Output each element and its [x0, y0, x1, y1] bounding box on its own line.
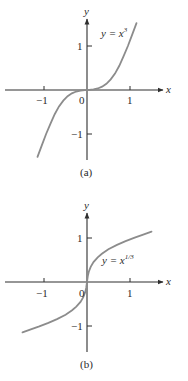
x-tick-label-1: 1 — [127, 287, 133, 299]
x-axis-label: x — [165, 83, 171, 95]
x-tick-label-neg1: −1 — [36, 94, 48, 106]
equation-label-b: y = x1/3 — [101, 253, 134, 266]
y-tick-label-1: 1 — [77, 232, 83, 244]
panel-a: x y −1 0 1 1 −1 y = x3 (a) — [5, 5, 171, 179]
x-tick-label-neg1: −1 — [36, 287, 48, 299]
caption-a: (a) — [80, 166, 93, 179]
x-tick-label-1: 1 — [127, 94, 133, 106]
panel-b: x y −1 0 1 1 −1 y = x1/3 (b) — [5, 199, 171, 371]
caption-b: (b) — [80, 358, 93, 371]
equation-label-a: y = x3 — [100, 26, 128, 39]
x-tick-label-0: 0 — [79, 94, 85, 106]
y-tick-label-neg1: −1 — [71, 128, 83, 140]
x-axis-label: x — [165, 275, 171, 287]
x-tick-label-0: 0 — [79, 287, 85, 299]
y-axis-label: y — [83, 199, 89, 211]
y-tick-label-1: 1 — [77, 40, 83, 52]
figure: x y −1 0 1 1 −1 y = x3 (a) x y −1 0 1 1 … — [0, 0, 188, 381]
y-axis-label: y — [83, 5, 89, 17]
y-tick-label-neg1: −1 — [71, 320, 83, 332]
